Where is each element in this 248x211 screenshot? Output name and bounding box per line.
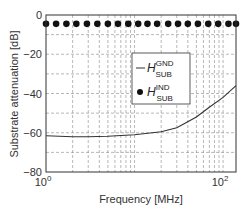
- series-ind-marker: [175, 21, 182, 28]
- series-ind-marker: [144, 21, 151, 28]
- series-ind-marker: [94, 21, 101, 28]
- attenuation-chart: 0−20−40−60−80 100102 Frequency [MHz] Sub…: [0, 0, 248, 211]
- series-ind-marker: [63, 21, 70, 28]
- series-ind-marker: [73, 21, 80, 28]
- series-ind-marker: [154, 21, 161, 28]
- series-ind-marker: [53, 21, 60, 28]
- y-tick-label: −20: [23, 48, 42, 60]
- series-ind-marker: [225, 21, 232, 28]
- series-ind-marker: [115, 21, 122, 28]
- series-ind-marker: [185, 21, 192, 28]
- y-axis-label: Substrate attenuation [dB]: [8, 30, 20, 157]
- x-tick-label: 102: [212, 174, 229, 188]
- series-ind-marker: [195, 21, 202, 28]
- series-ind-marker: [205, 21, 212, 28]
- legend: HGNDSUB HINDSUB: [132, 53, 190, 104]
- y-axis-ticks: 0−20−40−60−80: [23, 9, 42, 178]
- series-ind-marker: [105, 21, 112, 28]
- series-ind-marker: [135, 21, 142, 28]
- x-axis-ticks: 100102: [35, 174, 229, 188]
- legend-dot-swatch: [137, 89, 143, 95]
- series-ind-marker: [215, 21, 222, 28]
- y-tick-label: −40: [23, 88, 42, 100]
- series-ind-marker: [165, 21, 172, 28]
- y-tick-label: 0: [36, 9, 42, 21]
- series-ind-marker: [125, 21, 132, 28]
- y-tick-label: −60: [23, 127, 42, 139]
- x-axis-label: Frequency [MHz]: [99, 193, 183, 205]
- x-tick-label: 100: [35, 174, 52, 188]
- series-ind-marker: [84, 21, 91, 28]
